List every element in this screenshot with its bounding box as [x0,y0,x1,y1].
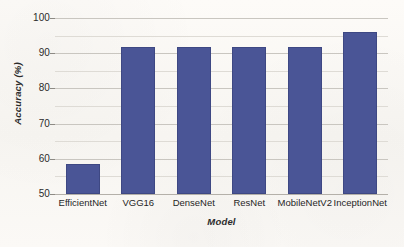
plot-area [55,18,388,194]
y-axis-tick-label: 60 [16,154,50,164]
y-axis-tick-label: 100 [16,13,50,23]
bar-inceptionnet [343,32,377,194]
bar-efficientnet [66,164,100,194]
x-axis-tick-labels: EfficientNetVGG16DenseNetResNetMobileNet… [55,197,388,211]
y-axis-tick-label: 90 [16,48,50,58]
y-axis-tick-labels: 5060708090100 [12,18,50,194]
y-axis-tick-mark [50,194,55,195]
bar-chart-figure: Accuracy (%) 5060708090100 EfficientNetV… [0,0,404,247]
bar-resnet [232,47,266,194]
y-axis-tick-label: 70 [16,119,50,129]
x-axis-title: Model [55,216,388,227]
y-axis-tick-label: 80 [16,83,50,93]
gridline-major [55,194,388,195]
bar-mobilenetv2 [288,47,322,194]
bars-layer [55,18,388,194]
y-axis-tick-label: 50 [16,189,50,199]
bar-vgg16 [121,47,155,194]
bar-densenet [177,47,211,194]
x-axis-tick-label: InceptionNet [327,197,395,209]
